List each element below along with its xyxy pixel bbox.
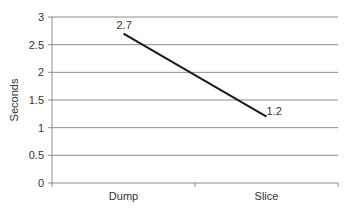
- data-labels: 2.71.2: [117, 19, 282, 117]
- x-axis-labels: DumpSlice: [109, 190, 279, 202]
- data-label: 1.2: [267, 105, 282, 117]
- y-tick-label: 3: [38, 11, 44, 23]
- y-tick-label: 1: [38, 122, 44, 134]
- y-axis-ticks: 00.511.522.53: [29, 11, 52, 189]
- y-tick-label: 1.5: [29, 94, 44, 106]
- data-label: 2.7: [117, 19, 132, 31]
- x-tick-label: Slice: [255, 190, 279, 202]
- gridlines: [52, 17, 338, 155]
- x-axis-ticks: [52, 183, 338, 187]
- y-axis-title: Seconds: [8, 78, 20, 121]
- data-line: [124, 34, 267, 117]
- y-tick-label: 2.5: [29, 39, 44, 51]
- y-tick-label: 0: [38, 177, 44, 189]
- y-tick-label: 2: [38, 66, 44, 78]
- x-tick-label: Dump: [109, 190, 138, 202]
- chart-canvas: 00.511.522.53 DumpSlice 2.71.2 Seconds: [0, 0, 349, 212]
- line-chart: 00.511.522.53 DumpSlice 2.71.2 Seconds: [0, 0, 349, 212]
- y-tick-label: 0.5: [29, 149, 44, 161]
